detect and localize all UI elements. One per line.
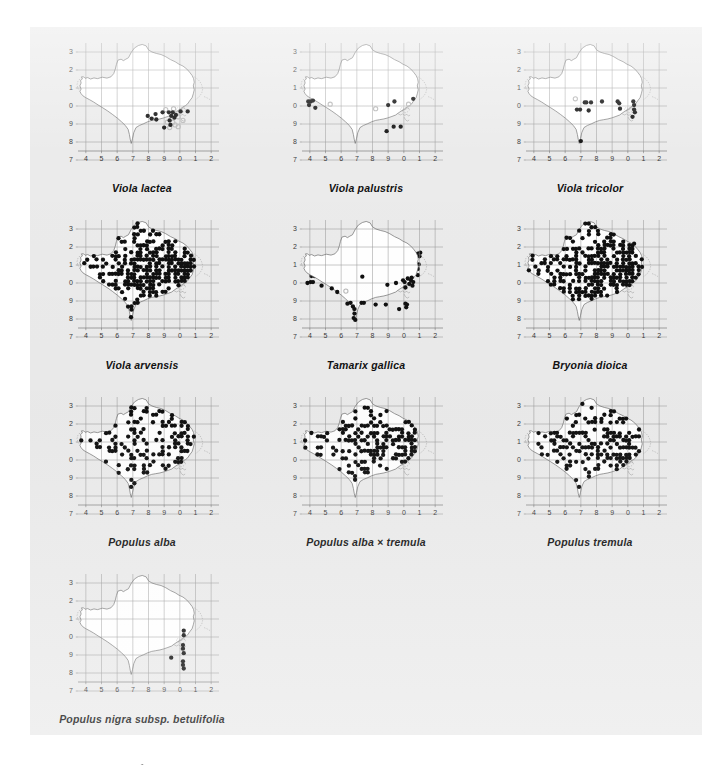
svg-text:7: 7	[131, 332, 135, 339]
figure-sheet: 4567890123210987Viola lactea456789012321…	[30, 27, 702, 735]
svg-text:2: 2	[69, 420, 73, 427]
svg-text:2: 2	[657, 155, 661, 162]
svg-text:2: 2	[69, 66, 73, 73]
svg-text:7: 7	[293, 333, 297, 340]
svg-text:9: 9	[517, 297, 521, 304]
svg-text:7: 7	[293, 510, 297, 517]
svg-text:2: 2	[209, 155, 213, 162]
svg-text:9: 9	[162, 686, 166, 693]
svg-text:2: 2	[293, 243, 297, 250]
svg-text:0: 0	[69, 456, 73, 463]
svg-text:6: 6	[115, 155, 119, 162]
svg-text:0: 0	[626, 332, 630, 339]
plot-area: 4567890123210987	[512, 212, 673, 352]
svg-text:9: 9	[69, 297, 73, 304]
svg-text:3: 3	[517, 48, 521, 55]
svg-text:0: 0	[626, 509, 630, 516]
land-fill	[80, 575, 194, 674]
svg-text:8: 8	[517, 315, 521, 322]
svg-text:8: 8	[147, 686, 151, 693]
svg-text:5: 5	[100, 332, 104, 339]
svg-text:8: 8	[293, 492, 297, 499]
svg-text:7: 7	[69, 510, 73, 517]
svg-text:8: 8	[69, 669, 73, 676]
svg-text:9: 9	[69, 474, 73, 481]
svg-text:2: 2	[657, 332, 661, 339]
svg-text:2: 2	[517, 66, 521, 73]
svg-text:8: 8	[69, 492, 73, 499]
svg-text:6: 6	[339, 509, 343, 516]
svg-text:8: 8	[371, 509, 375, 516]
svg-text:7: 7	[355, 509, 359, 516]
svg-text:3: 3	[517, 402, 521, 409]
svg-text:0: 0	[517, 456, 521, 463]
svg-text:6: 6	[563, 509, 567, 516]
svg-text:7: 7	[517, 333, 521, 340]
svg-text:1: 1	[418, 509, 422, 516]
svg-text:5: 5	[324, 332, 328, 339]
svg-text:8: 8	[595, 155, 599, 162]
svg-text:9: 9	[386, 155, 390, 162]
svg-text:7: 7	[355, 332, 359, 339]
plot-area: 4567890123210987	[288, 389, 449, 529]
map-panel-bryonia-dioica: 4567890123210987Bryonia dioica	[478, 204, 702, 381]
svg-text:3: 3	[293, 225, 297, 232]
svg-text:7: 7	[131, 509, 135, 516]
svg-text:2: 2	[69, 597, 73, 604]
svg-text:1: 1	[517, 438, 521, 445]
svg-text:2: 2	[293, 420, 297, 427]
svg-text:0: 0	[178, 155, 182, 162]
svg-text:8: 8	[69, 315, 73, 322]
map-panel-viola-tricolor: 4567890123210987Viola tricolor	[478, 27, 702, 204]
svg-text:2: 2	[293, 66, 297, 73]
svg-text:2: 2	[433, 155, 437, 162]
svg-text:9: 9	[610, 509, 614, 516]
svg-text:9: 9	[69, 651, 73, 658]
svg-text:3: 3	[69, 225, 73, 232]
panel-caption: Bryonia dioica	[478, 359, 702, 371]
svg-text:1: 1	[293, 261, 297, 268]
svg-text:3: 3	[293, 48, 297, 55]
svg-text:0: 0	[402, 155, 406, 162]
map-panel-tamarix-gallica: 4567890123210987Tamarix gallica	[254, 204, 478, 381]
svg-text:8: 8	[595, 509, 599, 516]
svg-text:1: 1	[69, 84, 73, 91]
svg-text:7: 7	[579, 509, 583, 516]
svg-text:0: 0	[293, 102, 297, 109]
panel-caption: Viola arvensis	[30, 359, 254, 371]
svg-text:4: 4	[308, 332, 312, 339]
svg-text:0: 0	[178, 509, 182, 516]
svg-text:7: 7	[517, 156, 521, 163]
plot-area: 4567890123210987	[64, 212, 225, 352]
svg-text:1: 1	[69, 261, 73, 268]
plot-area: 4567890123210987	[288, 35, 449, 175]
svg-text:4: 4	[532, 509, 536, 516]
svg-text:0: 0	[517, 102, 521, 109]
svg-text:4: 4	[84, 155, 88, 162]
svg-text:5: 5	[548, 332, 552, 339]
svg-text:8: 8	[517, 492, 521, 499]
svg-text:0: 0	[293, 456, 297, 463]
map-panel-populus-tremula: 4567890123210987Populus tremula	[478, 381, 702, 558]
svg-text:7: 7	[131, 155, 135, 162]
svg-text:8: 8	[147, 332, 151, 339]
svg-text:6: 6	[115, 686, 119, 693]
svg-text:7: 7	[579, 332, 583, 339]
svg-text:1: 1	[517, 261, 521, 268]
svg-text:9: 9	[517, 120, 521, 127]
svg-text:8: 8	[147, 155, 151, 162]
svg-text:8: 8	[371, 155, 375, 162]
svg-text:3: 3	[293, 402, 297, 409]
svg-text:0: 0	[69, 102, 73, 109]
svg-text:0: 0	[69, 633, 73, 640]
map-panel-populus-alba: 4567890123210987Populus alba	[30, 381, 254, 558]
svg-text:4: 4	[532, 332, 536, 339]
map-panel-viola-palustris: 4567890123210987Viola palustris	[254, 27, 478, 204]
svg-text:0: 0	[626, 155, 630, 162]
svg-text:6: 6	[115, 332, 119, 339]
svg-text:8: 8	[517, 138, 521, 145]
panel-caption: Populus alba	[30, 536, 254, 548]
svg-text:4: 4	[84, 509, 88, 516]
panel-caption: Populus tremula	[478, 536, 702, 548]
svg-text:9: 9	[517, 474, 521, 481]
